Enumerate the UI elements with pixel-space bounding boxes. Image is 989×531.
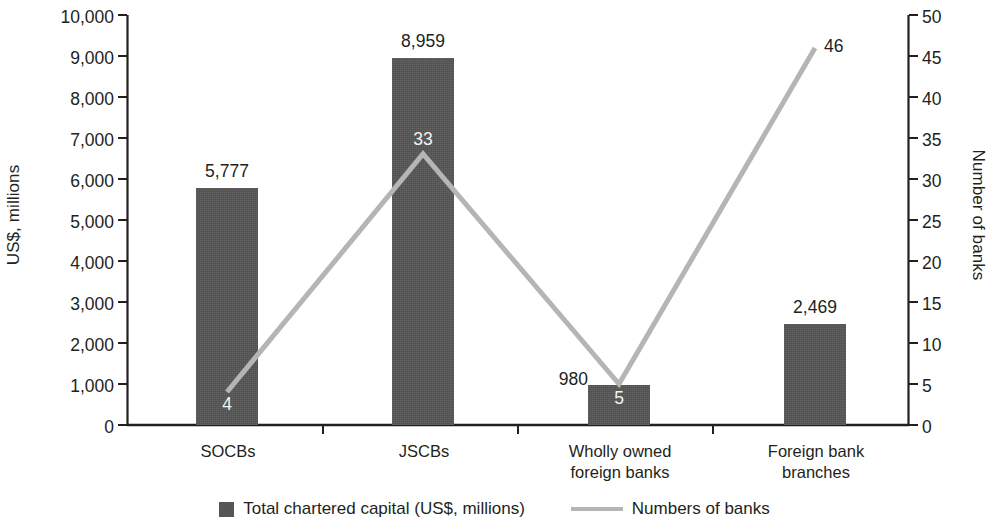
x-axis-label-jscbs: JSCBs	[374, 441, 474, 462]
bar-foreign-bank-branches[interactable]	[784, 324, 846, 425]
legend-label-numbers-of-banks: Numbers of banks	[632, 499, 770, 519]
bar-label-foreign-bank-branches: 2,469	[765, 299, 865, 317]
legend-item-numbers-of-banks[interactable]: Numbers of banks	[571, 499, 770, 519]
y-axis-right-tick-35: 35	[922, 132, 941, 150]
line-label-jscbs: 33	[393, 131, 453, 149]
bar-socbs[interactable]	[196, 188, 258, 425]
y-axis-left-tick-9000: 9,000	[14, 50, 114, 68]
y-axis-right-tick-45: 45	[922, 50, 941, 68]
y-axis-left-tick-8000: 8,000	[14, 91, 114, 109]
y-axis-left-tick-5000: 5,000	[14, 214, 114, 232]
y-axis-right-title: Number of banks	[968, 115, 988, 315]
bar-label-jscbs: 8,959	[373, 33, 473, 51]
y-axis-right-tick-10: 10	[922, 337, 941, 355]
legend-line-swatch-icon	[571, 507, 623, 511]
chart-legend: Total chartered capital (US$, millions) …	[0, 499, 989, 519]
y-axis-right-tick-40: 40	[922, 91, 941, 109]
x-axis-label-wholly-owned-foreign-banks-line1: Wholly owned	[540, 441, 700, 462]
y-axis-left-tick-7000: 7,000	[14, 132, 114, 150]
y-axis-left-tick-10000: 10,000	[14, 9, 114, 27]
legend-square-swatch-icon	[219, 502, 234, 517]
y-axis-right-tick-50: 50	[922, 9, 941, 27]
line-label-wholly-owned-foreign-banks: 5	[589, 390, 649, 408]
x-axis-label-socbs-line1: SOCBs	[178, 441, 278, 462]
combo-chart: US$, millions Number of banks 10,000 9,0…	[0, 0, 989, 531]
bar-label-socbs: 5,777	[177, 163, 277, 181]
y-axis-right-tick-5: 5	[922, 378, 932, 396]
y-axis-left-tick-3000: 3,000	[14, 296, 114, 314]
bar-label-wholly-owned-foreign-banks: 980	[508, 371, 588, 389]
legend-label-total-chartered-capital: Total chartered capital (US$, millions)	[243, 499, 525, 519]
y-axis-right-tick-15: 15	[922, 296, 941, 314]
x-axis-label-wholly-owned-foreign-banks: Wholly owned foreign banks	[540, 441, 700, 483]
x-axis-label-wholly-owned-foreign-banks-line2: foreign banks	[540, 462, 700, 483]
y-axis-right-tick-25: 25	[922, 214, 941, 232]
x-axis-label-foreign-bank-branches: Foreign bank branches	[736, 441, 896, 483]
y-axis-left-tick-4000: 4,000	[14, 255, 114, 273]
x-axis-label-foreign-bank-branches-line2: branches	[736, 462, 896, 483]
bar-jscbs[interactable]	[392, 58, 454, 425]
x-axis-label-jscbs-line1: JSCBs	[374, 441, 474, 462]
line-label-socbs: 4	[197, 396, 257, 414]
y-axis-left-tick-6000: 6,000	[14, 173, 114, 191]
y-axis-left-tick-2000: 2,000	[14, 337, 114, 355]
y-axis-right-tick-30: 30	[922, 173, 941, 191]
x-axis-label-foreign-bank-branches-line1: Foreign bank	[736, 441, 896, 462]
line-label-foreign-bank-branches: 46	[824, 38, 884, 56]
y-axis-right-tick-0: 0	[922, 419, 932, 437]
y-axis-left-tick-0: 0	[14, 419, 114, 437]
legend-item-total-chartered-capital[interactable]: Total chartered capital (US$, millions)	[219, 499, 525, 519]
y-axis-right-tick-20: 20	[922, 255, 941, 273]
y-axis-left-tick-1000: 1,000	[14, 378, 114, 396]
x-axis-label-socbs: SOCBs	[178, 441, 278, 462]
